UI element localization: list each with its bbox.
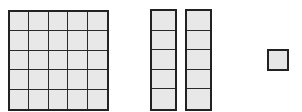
grid-cell: [68, 90, 87, 109]
grid-cell: [29, 90, 48, 109]
rod-cell: [152, 11, 175, 31]
rod-cell: [187, 11, 210, 31]
grid-cell: [49, 51, 68, 70]
grid-cell: [10, 70, 29, 89]
grid-cell: [49, 70, 68, 89]
grid-cell: [29, 12, 48, 31]
square-grid-block: [8, 10, 109, 111]
grid-cell: [10, 31, 29, 50]
grid-cell: [88, 12, 107, 31]
grid-cell: [88, 90, 107, 109]
grid-cell: [68, 51, 87, 70]
grid-cell: [29, 51, 48, 70]
rod-cell: [152, 70, 175, 90]
rod-cell: [152, 31, 175, 51]
rod-cell: [187, 31, 210, 51]
grid-cell: [88, 31, 107, 50]
rod-block-2: [185, 9, 212, 111]
grid-cell: [29, 70, 48, 89]
grid-cell: [68, 70, 87, 89]
grid-cell: [88, 51, 107, 70]
grid-cell: [10, 12, 29, 31]
rod-cell: [152, 50, 175, 70]
grid-cell: [49, 90, 68, 109]
grid-cell: [29, 31, 48, 50]
rod-cell: [187, 70, 210, 90]
rod-cell: [152, 89, 175, 109]
grid-cell: [10, 90, 29, 109]
rod-cell: [187, 50, 210, 70]
grid-cell: [49, 12, 68, 31]
grid-cell: [49, 31, 68, 50]
rod-cell: [187, 89, 210, 109]
grid-cell: [68, 31, 87, 50]
grid-cell: [88, 70, 107, 89]
grid-cell: [68, 12, 87, 31]
grid-cell: [10, 51, 29, 70]
unit-block: [267, 49, 289, 71]
rod-block-1: [150, 9, 177, 111]
